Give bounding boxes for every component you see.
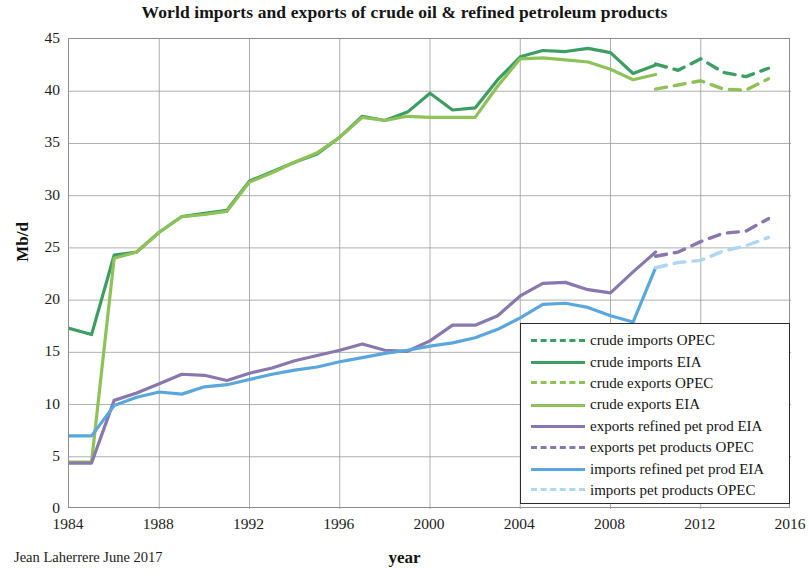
series-line-imports-pet-products-opec	[656, 237, 769, 267]
legend-item-label: imports pet products OPEC	[590, 482, 755, 499]
x-tick-label: 2012	[665, 516, 735, 532]
legend-swatch-solid-line-icon	[531, 462, 585, 476]
x-tick-label: 1988	[123, 516, 193, 532]
legend-item-label: crude exports OPEC	[590, 375, 713, 392]
y-tick-label: 5	[16, 448, 60, 464]
legend-item-label: imports refined pet prod EIA	[590, 461, 764, 478]
legend-swatch-solid-line-icon	[531, 419, 585, 433]
legend-item-label: exports pet products OPEC	[590, 439, 754, 456]
series-line-exports-pet-products-opec	[656, 219, 769, 257]
y-tick-label: 20	[16, 291, 60, 307]
x-tick-label: 2004	[484, 516, 554, 532]
legend-swatch-dashed-line-icon	[531, 334, 585, 348]
series-line-crude-imports-opec	[656, 59, 769, 77]
x-tick-label: 1984	[33, 516, 103, 532]
y-tick-label: 15	[16, 343, 60, 359]
legend-swatch-dashed-line-icon	[531, 483, 585, 497]
y-axis-label: Mb/d	[13, 197, 33, 287]
legend-swatch-solid-line-icon	[531, 355, 585, 369]
legend-item[interactable]: crude imports EIA	[521, 351, 789, 372]
x-tick-label: 1996	[304, 516, 374, 532]
legend-item-label: crude imports OPEC	[590, 332, 715, 349]
legend-swatch-dashed-line-icon	[531, 376, 585, 390]
legend-item[interactable]: exports pet products OPEC	[521, 437, 789, 458]
y-tick-label: 0	[16, 500, 60, 516]
legend-item-label: exports refined pet prod EIA	[590, 418, 762, 435]
y-tick-label: 10	[16, 396, 60, 412]
series-line-crude-exports-opec	[656, 79, 769, 90]
chart-legend: crude imports OPECcrude imports EIAcrude…	[520, 323, 790, 504]
x-tick-label: 2008	[575, 516, 645, 532]
chart-title: World imports and exports of crude oil &…	[0, 2, 809, 23]
y-tick-label: 45	[16, 30, 60, 46]
x-tick-label: 2016	[755, 516, 809, 532]
credit-line: Jean Laherrere June 2017	[14, 549, 163, 566]
y-axis-tick-labels: 051015202530354045	[0, 0, 64, 577]
legend-swatch-dashed-line-icon	[531, 441, 585, 455]
x-tick-label: 2000	[394, 516, 464, 532]
legend-item-label: crude exports EIA	[590, 396, 700, 413]
legend-item[interactable]: imports pet products OPEC	[521, 480, 789, 501]
legend-item[interactable]: crude imports OPEC	[521, 330, 789, 351]
legend-item[interactable]: crude exports EIA	[521, 394, 789, 415]
legend-swatch-solid-line-icon	[531, 398, 585, 412]
chart-root: World imports and exports of crude oil &…	[0, 0, 809, 577]
x-tick-label: 1992	[214, 516, 284, 532]
y-tick-label: 35	[16, 134, 60, 150]
legend-item[interactable]: exports refined pet prod EIA	[521, 416, 789, 437]
legend-item[interactable]: imports refined pet prod EIA	[521, 458, 789, 479]
y-tick-label: 40	[16, 82, 60, 98]
legend-item[interactable]: crude exports OPEC	[521, 373, 789, 394]
legend-item-label: crude imports EIA	[590, 354, 702, 371]
